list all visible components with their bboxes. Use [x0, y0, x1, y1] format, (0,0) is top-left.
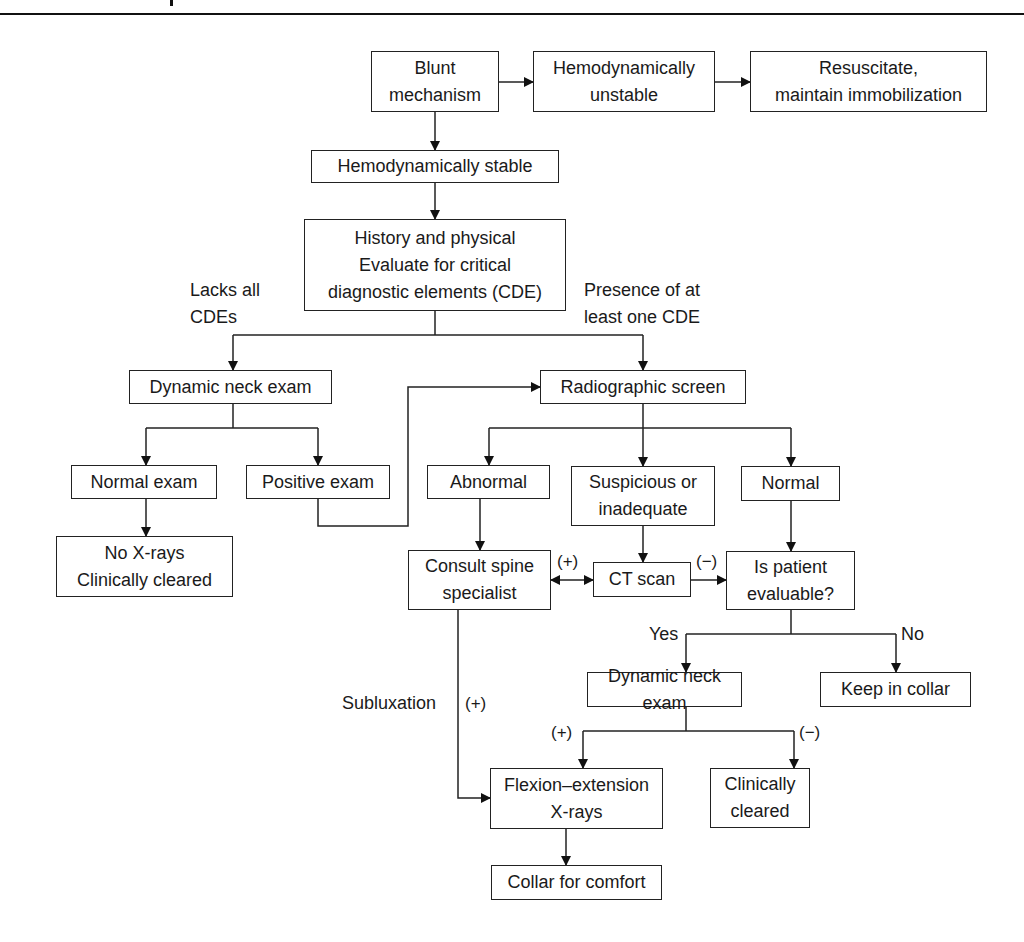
- node-consult-spine-specialist: Consult spine specialist: [408, 550, 551, 610]
- node-positive-exam: Positive exam: [246, 465, 390, 499]
- label-presence-cde: Presence of at least one CDE: [584, 277, 700, 331]
- node-suspicious-inadequate: Suspicious or inadequate: [571, 466, 715, 526]
- node-hemodynamically-unstable: Hemodynamically unstable: [533, 51, 715, 112]
- node-hemodynamically-stable: Hemodynamically stable: [311, 150, 559, 183]
- node-flexion-extension-xrays: Flexion–extension X-rays: [490, 768, 663, 829]
- node-radiographic-screen: Radiographic screen: [540, 370, 746, 404]
- node-is-patient-evaluable: Is patient evaluable?: [726, 551, 855, 610]
- node-resuscitate: Resuscitate, maintain immobilization: [750, 51, 987, 112]
- label-no: No: [901, 621, 924, 648]
- label-dyn-negative: (−): [799, 719, 820, 746]
- label-subluxation-positive: (+): [465, 690, 486, 717]
- node-dynamic-neck-exam-2: Dynamic neck exam: [587, 672, 742, 707]
- node-no-xrays-cleared: No X-rays Clinically cleared: [56, 536, 233, 597]
- node-abnormal: Abnormal: [427, 465, 550, 499]
- node-ct-scan: CT scan: [593, 562, 691, 597]
- label-yes: Yes: [649, 621, 678, 648]
- node-normal: Normal: [741, 466, 840, 501]
- node-keep-in-collar: Keep in collar: [820, 672, 971, 707]
- node-history-physical: History and physical Evaluate for critic…: [304, 219, 566, 311]
- label-lacks-cde: Lacks all CDEs: [190, 277, 260, 331]
- node-blunt-mechanism: Blunt mechanism: [371, 51, 499, 112]
- node-normal-exam: Normal exam: [71, 465, 217, 499]
- label-ct-negative: (−): [696, 548, 717, 575]
- label-subluxation: Subluxation: [342, 690, 436, 717]
- node-dynamic-neck-exam-1: Dynamic neck exam: [129, 370, 332, 404]
- label-dyn-positive: (+): [551, 719, 572, 746]
- node-collar-for-comfort: Collar for comfort: [491, 865, 662, 900]
- label-ct-positive: (+): [557, 548, 578, 575]
- node-clinically-cleared: Clinically cleared: [710, 768, 810, 828]
